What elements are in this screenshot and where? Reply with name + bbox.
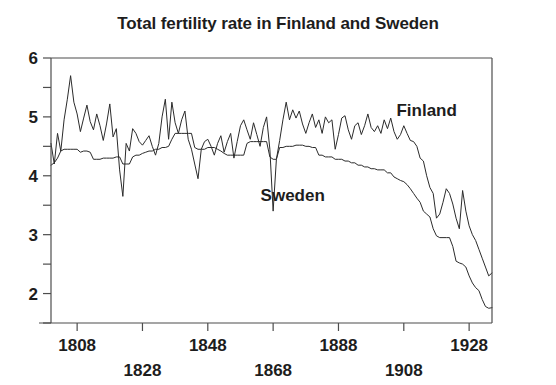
- y-axis-tick-label: 3: [29, 226, 38, 245]
- x-axis-tick-label: 1868: [254, 361, 292, 380]
- x-axis: 1808182818481868188819081928: [58, 323, 488, 380]
- series-line-sweden: [51, 133, 492, 308]
- x-axis-tick-label: 1828: [124, 361, 162, 380]
- y-axis: 23456: [29, 49, 51, 323]
- x-axis-tick-label: 1808: [58, 336, 96, 355]
- x-axis-tick-label: 1908: [385, 361, 423, 380]
- y-axis-tick-label: 4: [29, 167, 39, 186]
- y-axis-tick-label: 2: [29, 285, 38, 304]
- x-axis-tick-label: 1848: [189, 336, 227, 355]
- y-axis-tick-label: 5: [29, 108, 38, 127]
- series-annotations: FinlandSweden: [261, 101, 457, 205]
- series-label-sweden: Sweden: [261, 186, 325, 205]
- fertility-rate-line-chart: 23456 1808182818481868188819081928 Finla…: [0, 0, 556, 385]
- y-axis-tick-label: 6: [29, 49, 38, 68]
- x-axis-tick-label: 1888: [320, 336, 358, 355]
- chart-figure: Total fertility rate in Finland and Swed…: [0, 0, 556, 385]
- x-axis-tick-label: 1928: [450, 336, 488, 355]
- series-label-finland: Finland: [396, 101, 456, 120]
